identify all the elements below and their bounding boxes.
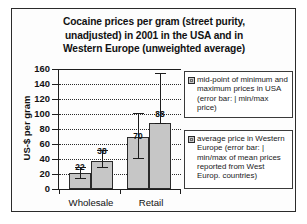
y-label-20: 20: [20, 168, 50, 179]
plot-area: 160 140 120 100 80 60 40 20 0 22: [58, 69, 181, 190]
westeurope-series-swatch-icon: [188, 136, 195, 143]
errorbar-cap-retail-usa-low: [133, 158, 144, 159]
legend-entry-westeurope-text: average price in Western Europe (error b…: [197, 134, 289, 180]
y-label-40: 40: [20, 153, 50, 164]
chart-title: Cocaine prices per gram (street purity, …: [26, 15, 282, 56]
y-label-120: 120: [20, 93, 50, 104]
errorbar-cap-retail-westeurope-high: [155, 73, 166, 74]
errorbar-cap-retail-usa-high: [133, 113, 144, 114]
gridline-140: [59, 84, 181, 85]
legend-we-line-1: average price in: [197, 134, 253, 143]
y-tick-20: [52, 174, 58, 175]
data-label-retail-westeurope: 88: [149, 109, 171, 119]
y-tick-100: [52, 114, 58, 115]
y-label-0: 0: [20, 183, 50, 194]
legend-entry-usa: mid-point of minimum and maximum prices …: [184, 71, 293, 118]
y-label-100: 100: [20, 108, 50, 119]
data-label-wholesale-westeurope: 38: [91, 146, 113, 156]
y-tick-60: [52, 144, 58, 145]
chart-title-line-3: Western Europe (unweighted average): [26, 42, 282, 56]
y-label-160: 160: [20, 63, 50, 74]
x-category-retail: Retail: [116, 197, 186, 208]
y-label-60: 60: [20, 138, 50, 149]
gridline-120: [59, 99, 181, 100]
chart-frame: Cocaine prices per gram (street purity, …: [11, 8, 296, 212]
data-label-wholesale-usa: 22: [69, 162, 91, 172]
errorbar-cap-retail-westeurope-low: [155, 123, 166, 124]
legend-entry-usa-text: mid-point of minimum and maximum prices …: [197, 75, 289, 112]
y-label-80: 80: [20, 123, 50, 134]
y-tick-160: [52, 69, 58, 70]
chart-title-line-2: unadjusted) in 2001 in the USA and in: [26, 29, 282, 43]
legend-entry-westeurope: average price in Western Europe (error b…: [184, 130, 293, 189]
bar-retail-westeurope: [149, 123, 171, 189]
x-tick-left: [59, 189, 60, 194]
y-tick-0: [52, 189, 58, 190]
errorbar-cap-wholesale-westeurope-low: [97, 167, 108, 168]
y-tick-40: [52, 159, 58, 160]
y-tick-120: [52, 99, 58, 100]
gridline-160: [59, 69, 181, 70]
y-tick-140: [52, 84, 58, 85]
usa-series-swatch-icon: [188, 77, 195, 84]
x-tick-mid: [120, 189, 121, 194]
x-tick-right: [180, 189, 181, 194]
y-tick-80: [52, 129, 58, 130]
errorbar-cap-wholesale-usa-low: [75, 178, 86, 179]
data-label-retail-usa: 70: [127, 131, 149, 141]
legend-usa-line-1: mid-point of minimum: [197, 75, 272, 84]
y-label-140: 140: [20, 78, 50, 89]
chart-title-line-1: Cocaine prices per gram (street purity,: [26, 15, 282, 29]
